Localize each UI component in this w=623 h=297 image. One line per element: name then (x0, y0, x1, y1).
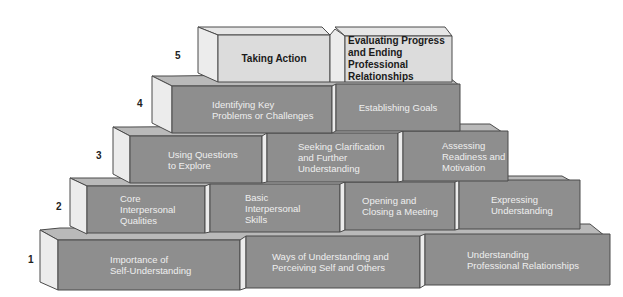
block-seeking-clarification: Seeking Clarification and Further Unders… (298, 133, 398, 182)
block-label: Expressing Understanding (491, 194, 553, 216)
block-opening-closing-meeting: Opening and Closing a Meeting (362, 182, 455, 230)
block-expressing-understanding: Expressing Understanding (491, 180, 580, 229)
block-label: Evaluating Progress and Ending Professio… (348, 35, 445, 83)
block-basic-interpersonal-skills: Basic Interpersonal Skills (245, 184, 340, 232)
block-label: Using Questions to Explore (168, 149, 238, 171)
block-label: Taking Action (242, 53, 307, 65)
level-number-1: 1 (28, 254, 34, 265)
block-using-questions: Using Questions to Explore (168, 136, 262, 183)
block-label: Core Interpersonal Qualities (120, 193, 175, 226)
block-label: Assessing Readiness and Motivation (442, 140, 505, 173)
block-label: Opening and Closing a Meeting (362, 195, 438, 217)
block-identifying-key-problems: Identifying Key Problems or Challenges (212, 86, 332, 133)
block-establishing-goals: Establishing Goals (336, 84, 460, 131)
level-number-2: 2 (56, 201, 62, 212)
block-label: Importance of Self-Understanding (110, 254, 191, 276)
block-label: Identifying Key Problems or Challenges (212, 99, 313, 121)
block-label: Basic Interpersonal Skills (245, 192, 300, 225)
block-label: Seeking Clarification and Further Unders… (298, 141, 385, 174)
block-label: Ways of Understanding and Perceiving Sel… (272, 251, 389, 273)
block-taking-action: Taking Action (218, 35, 330, 82)
level-number-3: 3 (96, 150, 102, 161)
block-understanding-professional-relationships-label: Understanding Professional Relationships (467, 234, 610, 285)
block-core-interpersonal-qualities: Core Interpersonal Qualities (120, 186, 205, 233)
level-number-4: 4 (137, 98, 143, 109)
block-ways-of-understanding-label: Ways of Understanding and Perceiving Sel… (272, 236, 420, 288)
level-number-5: 5 (175, 50, 181, 61)
block-label: Understanding Professional Relationships (467, 249, 579, 271)
block-evaluating-progress: Evaluating Progress and Ending Professio… (348, 36, 452, 82)
block-importance-of-self-understanding-label: Importance of Self-Understanding (110, 240, 240, 290)
block-assessing-readiness: Assessing Readiness and Motivation (442, 131, 508, 181)
block-label: Establishing Goals (359, 102, 438, 113)
